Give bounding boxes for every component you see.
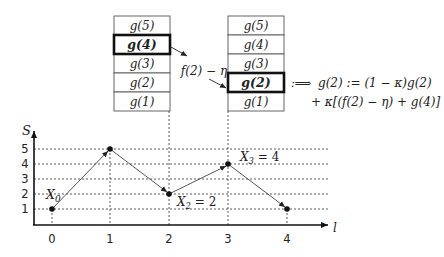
left-label-g5: g(5) bbox=[130, 19, 155, 33]
right-label-g4: g(4) bbox=[244, 38, 269, 52]
point-l2 bbox=[166, 191, 172, 197]
segment-3-4 bbox=[228, 164, 285, 207]
diagram-canvas: g(5) g(4) g(3) g(2) g(1) g(5) g(4) g(3) … bbox=[0, 0, 444, 257]
annotation-x3: X3 = 4 bbox=[239, 150, 280, 166]
y-tick-5: 5 bbox=[21, 142, 28, 156]
x-tick-0: 0 bbox=[48, 232, 55, 246]
x-tick-labels: 0 1 2 3 4 bbox=[48, 232, 290, 246]
implies-symbol: :⟹ bbox=[291, 76, 312, 90]
point-l1 bbox=[107, 146, 113, 152]
right-label-g1: g(1) bbox=[244, 95, 269, 109]
left-label-g3: g(3) bbox=[130, 57, 155, 71]
left-label-g2: g(2) bbox=[130, 76, 155, 90]
left-memory-stack: g(5) g(4) g(3) g(2) g(1) bbox=[114, 16, 170, 111]
y-axis-label: S bbox=[22, 123, 31, 138]
update-rule-line1: g(2) := (1 − κ)g(2) bbox=[318, 76, 432, 90]
point-l0 bbox=[49, 206, 55, 212]
x-tick-1: 1 bbox=[106, 232, 113, 246]
y-tick-2: 2 bbox=[21, 187, 28, 201]
x-tick-4: 4 bbox=[283, 232, 290, 246]
annotation-x2: X2 = 2 bbox=[176, 195, 216, 211]
point-l4 bbox=[284, 206, 290, 212]
segment-1-2 bbox=[110, 149, 167, 192]
x-axis-label: l bbox=[333, 221, 337, 235]
transfer-arrow-in-icon bbox=[209, 79, 226, 88]
transfer-arrow-out-icon bbox=[171, 47, 187, 56]
right-label-g5: g(5) bbox=[244, 19, 269, 33]
update-rule-line2: + κ[(f(2) − η) + g(4)] bbox=[311, 95, 440, 109]
x-tick-3: 3 bbox=[224, 232, 231, 246]
left-label-g4: g(4) bbox=[127, 37, 156, 52]
left-label-g1: g(1) bbox=[130, 95, 155, 109]
y-tick-4: 4 bbox=[21, 157, 28, 171]
right-memory-stack: g(5) g(4) g(3) g(2) g(1) bbox=[228, 16, 284, 111]
y-tick-1: 1 bbox=[21, 202, 28, 216]
y-tick-3: 3 bbox=[21, 172, 28, 186]
transfer-label: f(2) − η bbox=[180, 64, 228, 78]
right-label-g3: g(3) bbox=[244, 57, 269, 71]
y-tick-labels: 5 4 3 2 1 bbox=[21, 142, 28, 216]
right-label-g2: g(2) bbox=[241, 75, 270, 90]
segment-2-3 bbox=[169, 166, 226, 194]
x-tick-2: 2 bbox=[165, 232, 172, 246]
annotation-x0: X0 bbox=[45, 187, 61, 204]
point-l3 bbox=[225, 161, 231, 167]
